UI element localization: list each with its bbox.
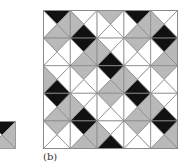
tile-r2-c3 [124,66,151,94]
tile-r1-c2 [97,38,124,66]
tile-r2-c2 [97,66,124,94]
figure-label: (b) [43,151,57,162]
tile-r3-c2 [97,93,124,121]
tile-r4-c4 [151,121,178,149]
tile-r0-c1 [70,11,97,39]
tile-r0-c0 [44,11,71,39]
tile-r1-c1 [70,38,97,66]
tile-r3-c4 [151,93,178,121]
tile-r3-c3 [124,93,151,121]
single-tile-shape [0,122,16,149]
tile-r2-c4 [151,66,178,94]
tile-r4-c1 [70,121,97,149]
tile-r1-c0 [44,38,71,66]
single-tile [0,121,16,149]
tile-r1-c4 [151,38,178,66]
tile-r4-c2 [97,121,124,149]
tile-r0-c2 [97,11,124,39]
tile-r3-c0 [44,93,71,121]
tile-r4-c0 [44,121,71,149]
tile-r0-c3 [124,11,151,39]
tile-r3-c1 [70,93,97,121]
tile-r1-c3 [124,38,151,66]
tile-r2-c0 [44,66,71,94]
tile-r4-c3 [124,121,151,149]
tile-r2-c1 [70,66,97,94]
tiling-grid [43,10,178,149]
tile-r0-c4 [151,11,178,39]
